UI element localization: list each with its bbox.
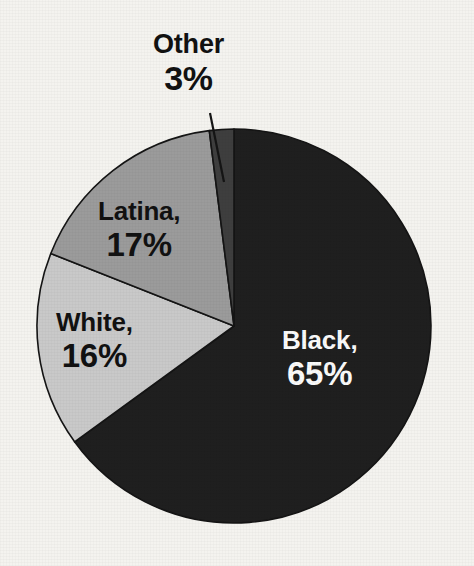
- slice-label-other: Other 3%: [153, 30, 224, 96]
- slice-label-black: Black, 65%: [282, 327, 357, 392]
- slice-label-white-value: 16%: [56, 339, 133, 374]
- pie-chart-figure: Black, 65% White, 16% Latina, 17% Other …: [0, 0, 474, 566]
- slice-label-latina-value: 17%: [98, 228, 180, 263]
- slice-label-white: White, 16%: [56, 309, 133, 374]
- slice-label-white-name: White,: [56, 309, 133, 337]
- slice-label-latina-name: Latina,: [98, 198, 180, 226]
- slice-label-latina: Latina, 17%: [98, 198, 180, 263]
- pie-chart-canvas: [0, 0, 474, 566]
- slice-label-black-name: Black,: [282, 327, 357, 355]
- slice-label-other-name: Other: [153, 30, 224, 59]
- slice-label-other-value: 3%: [153, 60, 224, 96]
- slice-label-black-value: 65%: [282, 357, 357, 392]
